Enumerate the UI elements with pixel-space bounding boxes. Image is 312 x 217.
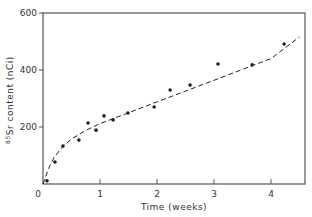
- y-axis-label-text: Sr content (nCi): [5, 56, 15, 135]
- y-tick-label: 400: [20, 65, 37, 75]
- data-point: [152, 105, 156, 109]
- data-point: [53, 160, 57, 164]
- data-point: [111, 118, 115, 122]
- x-tick-label: 1: [97, 189, 103, 199]
- data-point: [282, 42, 286, 46]
- data-point: [168, 88, 172, 92]
- x-tick-label: 3: [211, 189, 217, 199]
- chart: 12340200400600 Time (weeks) 85Sr content…: [0, 0, 312, 217]
- y-axis-superscript: 85: [4, 135, 11, 144]
- data-point: [216, 62, 220, 66]
- origin-label: 0: [35, 189, 41, 199]
- fit-line: [43, 37, 300, 184]
- data-point: [250, 63, 254, 67]
- x-axis-title: Time (weeks): [140, 202, 207, 212]
- data-point: [102, 114, 106, 118]
- y-tick-label: 600: [20, 8, 37, 18]
- y-axis-title: 85Sr content (nCi): [4, 56, 15, 144]
- fit-curve: [43, 37, 300, 184]
- data-points: [45, 42, 286, 182]
- data-point: [61, 144, 65, 148]
- plot-border: [43, 13, 305, 184]
- data-point: [126, 111, 130, 115]
- data-point: [94, 128, 98, 132]
- y-tick-label: 200: [20, 122, 37, 132]
- data-point: [86, 121, 90, 125]
- x-tick-label: 4: [268, 189, 274, 199]
- data-point: [188, 83, 192, 87]
- axis-ticks: 12340200400600: [20, 8, 274, 199]
- data-point: [45, 179, 49, 183]
- plot-frame: [43, 13, 305, 184]
- data-point: [77, 138, 81, 142]
- x-tick-label: 2: [154, 189, 160, 199]
